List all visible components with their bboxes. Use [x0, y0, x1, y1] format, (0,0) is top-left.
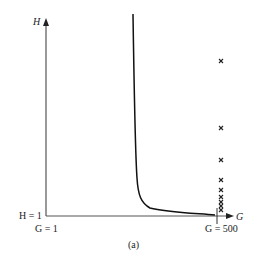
x-marker-icon — [219, 188, 223, 192]
x-axis-label: G — [236, 211, 243, 222]
x-markers — [219, 59, 223, 212]
figure-caption: (a) — [128, 239, 139, 251]
y-axis-label: H — [32, 16, 41, 27]
x-marker-icon — [219, 178, 223, 182]
curve-line — [133, 14, 215, 215]
x-marker-icon — [219, 208, 223, 212]
x-marker-icon — [219, 200, 223, 204]
x-marker-icon — [219, 59, 223, 63]
chart-figure: H G H = 1 G = 1 G = 500 (a) — [0, 0, 259, 267]
origin-h-label: H = 1 — [19, 210, 42, 221]
x-marker-icon — [219, 126, 223, 130]
x-marker-icon — [219, 204, 223, 208]
origin-g-label: G = 1 — [35, 223, 58, 234]
x-marker-icon — [219, 158, 223, 162]
x-end-label: G = 500 — [205, 223, 238, 234]
x-marker-icon — [219, 195, 223, 199]
